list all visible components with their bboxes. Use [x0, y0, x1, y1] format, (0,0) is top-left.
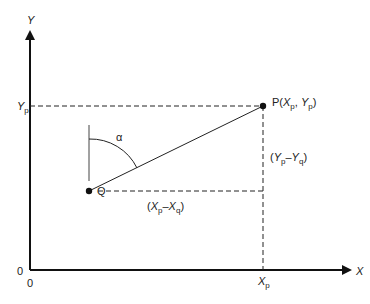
- coordinate-diagram: Y X 0 0 Yp Xp P(Xp, Yp) Q α (Yp–Yq) (Xp–…: [0, 0, 370, 304]
- point-q: [86, 188, 92, 194]
- angle-arc: [89, 139, 137, 168]
- point-p-label: P(Xp, Yp): [272, 96, 316, 111]
- x-axis-label: X: [355, 265, 364, 277]
- xp-tick-label: Xp: [257, 275, 270, 290]
- yp-tick-label: Yp: [17, 100, 29, 115]
- origin-y-label: 0: [17, 265, 23, 277]
- point-p: [260, 103, 266, 109]
- line-qp: [89, 106, 263, 191]
- dy-label: (Yp–Yq): [270, 151, 307, 166]
- y-axis-label: Y: [27, 14, 35, 26]
- point-q-label: Q: [97, 185, 106, 197]
- origin-x-label: 0: [27, 277, 33, 289]
- angle-alpha-label: α: [116, 131, 123, 143]
- dx-label: (Xp–Xq): [147, 200, 184, 215]
